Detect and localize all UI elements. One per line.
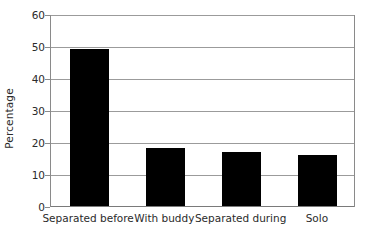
gridline-60 <box>51 15 354 16</box>
y-tick-label-0: 0 <box>11 201 45 213</box>
gridline-0 <box>51 206 354 207</box>
bar <box>298 155 337 206</box>
plot-area <box>50 15 355 207</box>
x-tick-label: Solo <box>306 212 328 224</box>
x-tick-label: Separated during <box>195 212 286 224</box>
bar <box>70 49 109 206</box>
y-tick-label-10: 10 <box>11 169 45 181</box>
x-tick-label: With buddy <box>134 212 194 224</box>
y-tick-label-40: 40 <box>11 73 45 85</box>
gridline-50 <box>51 47 354 48</box>
x-tick-label: Separated before <box>42 212 133 224</box>
y-tick-label-60: 60 <box>11 9 45 21</box>
bar-chart: Percentage 0102030405060 Separated befor… <box>0 0 386 237</box>
y-tick-label-50: 50 <box>11 41 45 53</box>
bar <box>146 148 185 206</box>
y-tick-mark-0 <box>45 207 50 208</box>
bar <box>222 152 261 206</box>
y-tick-label-30: 30 <box>11 105 45 117</box>
y-tick-label-20: 20 <box>11 137 45 149</box>
